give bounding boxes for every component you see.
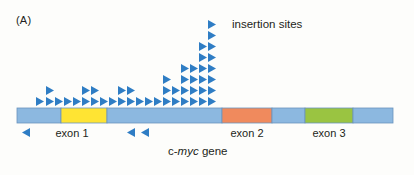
exon-1-label: exon 1 [46, 127, 98, 139]
insertion-site-triangle [199, 42, 207, 51]
insertion-site-triangle [127, 97, 135, 106]
gene-label-italic: myc [178, 145, 199, 157]
gene-segment-exon-2 [222, 108, 272, 123]
insertion-site-triangle [181, 86, 189, 95]
insertion-site-triangle [208, 75, 216, 84]
insertion-site-triangle [127, 86, 135, 95]
insertion-site-triangle [190, 97, 198, 106]
insertion-site-triangle [199, 75, 207, 84]
insertion-site-triangle [145, 97, 153, 106]
gene-segment-intron-mid-2 [272, 108, 305, 123]
insertion-site-triangle [208, 31, 216, 40]
insertion-site-triangle [199, 86, 207, 95]
insertion-sites-figure: (A) insertion sites c-myc gene exon 1 ex… [0, 0, 414, 175]
insertion-site-triangle [181, 75, 189, 84]
insertion-site-markers-above [36, 20, 216, 106]
gene-segment-exon-1 [61, 108, 107, 123]
insertion-site-triangle [136, 97, 144, 106]
panel-letter: (A) [16, 14, 31, 26]
insertion-site-triangle [36, 97, 44, 106]
insertion-site-triangle [141, 128, 149, 137]
insertion-site-triangle [172, 97, 180, 106]
insertion-site-triangle [118, 97, 126, 106]
insertion-site-triangle [100, 97, 108, 106]
exon-3-label: exon 3 [303, 127, 355, 139]
insertion-site-triangle [55, 97, 63, 106]
insertion-site-triangle [181, 97, 189, 106]
insertion-site-triangle [172, 86, 180, 95]
insertion-site-triangle [22, 128, 30, 137]
insertion-site-triangle [199, 97, 207, 106]
insertion-site-triangle [64, 97, 72, 106]
insertion-site-triangle [208, 20, 216, 29]
insertion-site-triangle [163, 86, 171, 95]
insertion-site-triangle [91, 97, 99, 106]
insertion-site-triangle [46, 97, 54, 106]
gene-label-suffix: gene [199, 145, 228, 157]
gene-name-label: c-myc gene [168, 145, 227, 157]
insertion-site-triangle [82, 86, 90, 95]
insertion-site-triangle [190, 75, 198, 84]
insertion-site-triangle [163, 75, 171, 84]
gene-segment-exon-3 [305, 108, 353, 123]
gene-segment-intron-left [17, 108, 61, 123]
exon-2-label: exon 2 [221, 127, 273, 139]
insertion-site-triangle [208, 64, 216, 73]
insertion-sites-label: insertion sites [232, 18, 302, 30]
insertion-site-triangle [73, 97, 81, 106]
insertion-site-triangle [154, 97, 162, 106]
insertion-site-triangle [91, 86, 99, 95]
insertion-site-triangle [82, 97, 90, 106]
gene-label-prefix: c- [168, 145, 178, 157]
insertion-site-triangle [208, 53, 216, 62]
insertion-site-triangle [127, 128, 135, 137]
insertion-site-triangle [190, 64, 198, 73]
gene-segment-intron-mid-1 [107, 108, 222, 123]
insertion-site-triangle [208, 86, 216, 95]
insertion-site-triangle [46, 86, 54, 95]
insertion-site-triangle [163, 97, 171, 106]
insertion-site-triangle [208, 42, 216, 51]
insertion-site-triangle [208, 97, 216, 106]
insertion-site-triangle [190, 86, 198, 95]
insertion-site-triangle [109, 97, 117, 106]
gene-bar [17, 108, 393, 123]
insertion-site-triangle [199, 53, 207, 62]
insertion-site-triangle [118, 86, 126, 95]
insertion-site-triangle [199, 64, 207, 73]
gene-segment-intron-right [353, 108, 393, 123]
insertion-site-triangle [181, 64, 189, 73]
